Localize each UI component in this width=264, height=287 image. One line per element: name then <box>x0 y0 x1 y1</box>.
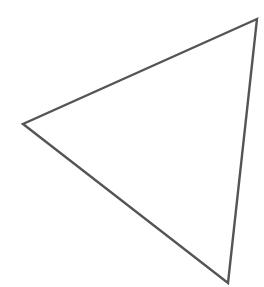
drawing-canvas <box>0 0 264 287</box>
triangle-diagram <box>0 0 264 287</box>
triangle-shape <box>23 19 257 283</box>
